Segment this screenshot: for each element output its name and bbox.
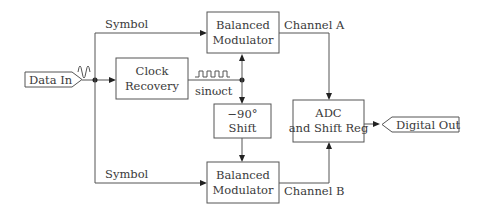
modulator-a-line1: Balanced	[216, 18, 270, 32]
modulator-b-line1: Balanced	[216, 168, 270, 182]
adc-line1: ADC	[314, 106, 342, 120]
arrow-to-clock-recovery	[109, 77, 116, 83]
digital-out-label: Digital Out	[396, 118, 461, 132]
arrow-to-digital-out	[373, 121, 380, 127]
modulator-b-block: Balanced Modulator	[207, 162, 279, 203]
analog-signal-icon	[78, 66, 90, 78]
channel-a-label: Channel A	[284, 18, 345, 32]
phase-shift-line2: Shift	[229, 121, 257, 135]
demodulator-block-diagram: Data In Symbol Symbol Clock Recovery sin…	[0, 0, 482, 219]
clock-recovery-line1: Clock	[136, 64, 170, 78]
arrow-to-modulator-a	[200, 30, 207, 36]
clock-recovery-line2: Recovery	[125, 79, 180, 93]
channel-b-wire	[279, 144, 329, 183]
digital-out-connector: Digital Out	[382, 117, 461, 132]
modulator-a-block: Balanced Modulator	[207, 12, 279, 53]
symbol-label-bottom: Symbol	[105, 167, 149, 181]
arrow-to-modulator-b	[200, 180, 207, 186]
channel-a-wire	[279, 33, 329, 98]
arrow-channel-a	[326, 93, 332, 100]
modulator-a-line2: Modulator	[212, 33, 274, 47]
phase-shift-line1: −90°	[227, 107, 257, 121]
arrow-carrier-up	[239, 54, 245, 61]
channel-b-label: Channel B	[284, 184, 344, 198]
data-in-label: Data In	[29, 73, 73, 87]
data-in-connector: Data In	[25, 72, 82, 87]
modulator-b-line2: Modulator	[212, 183, 274, 197]
arrow-carrier-down	[239, 97, 245, 104]
phase-shift-block: −90° Shift	[214, 104, 271, 138]
adc-block: ADC and Shift Reg	[289, 100, 369, 142]
carrier-label: sinωct	[195, 84, 233, 98]
square-wave-icon	[195, 71, 230, 77]
symbol-label-top: Symbol	[105, 17, 149, 31]
arrow-channel-b	[326, 142, 332, 149]
clock-recovery-block: Clock Recovery	[116, 58, 188, 99]
adc-line2: and Shift Reg	[289, 121, 369, 135]
arrow-shift-down	[239, 155, 245, 162]
